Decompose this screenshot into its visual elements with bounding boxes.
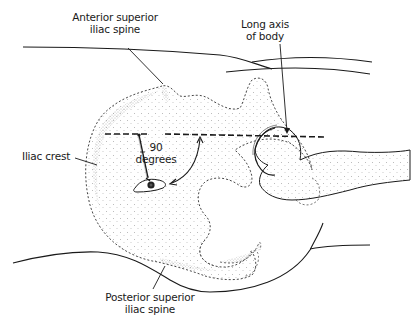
label-posterior-superior-iliac-spine: Posterior superior iliac spine (90, 291, 210, 315)
pelvis-diagram (0, 0, 418, 331)
femur-bone (253, 125, 410, 205)
anatomy-figure: Anterior superior iliac spine Long axis … (0, 0, 418, 331)
label-90-degrees: 90 degrees (132, 141, 180, 165)
label-anterior-superior-iliac-spine: Anterior superior iliac spine (55, 11, 175, 35)
label-iliac-crest: Iliac crest (22, 150, 70, 162)
label-long-axis-of-body: Long axis of body (225, 18, 305, 42)
